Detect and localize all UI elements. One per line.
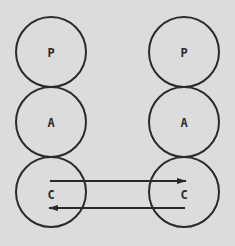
left-p-label: P xyxy=(47,46,54,60)
pac-diagram: P A C P A C xyxy=(0,0,235,246)
right-a-label: A xyxy=(180,116,188,130)
left-a-label: A xyxy=(47,116,55,130)
left-c-label: C xyxy=(47,188,54,202)
right-c-label: C xyxy=(180,188,187,202)
right-p-label: P xyxy=(180,46,187,60)
